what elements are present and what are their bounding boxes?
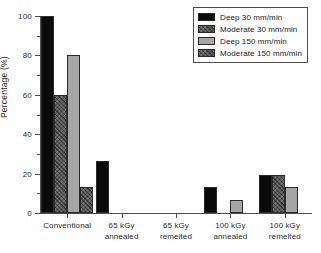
legend-swatch-moderate-150-icon [198, 49, 215, 57]
legend-item[interactable]: Deep 150 mm/min [198, 35, 302, 47]
y-tick-label: 60 [23, 90, 32, 99]
bar[interactable] [96, 161, 109, 213]
y-tick-mark [35, 213, 40, 214]
x-tick-mark [285, 213, 286, 218]
bar[interactable] [204, 187, 217, 213]
legend-label: Moderate 150 mm/min [220, 49, 302, 58]
x-tick-label: 65 kGy annealed [94, 220, 148, 242]
bar[interactable] [54, 95, 67, 213]
bar[interactable] [272, 175, 285, 213]
legend-label: Moderate 30 mm/min [220, 25, 297, 34]
legend-label: Deep 150 mm/min [220, 37, 287, 46]
x-tick-mark [67, 213, 68, 218]
x-tick-label: Conventional [40, 220, 94, 231]
x-tick-mark [230, 213, 231, 218]
legend-item[interactable]: Deep 30 mm/min [198, 11, 302, 23]
legend-label: Deep 30 mm/min [220, 13, 282, 22]
bar[interactable] [67, 55, 80, 213]
x-tick-label: 100 kGy remelted [258, 220, 312, 242]
x-tick-label: 65 kGy remelted [149, 220, 203, 242]
y-tick-label: 0 [27, 209, 32, 218]
y-tick-label: 40 [23, 130, 32, 139]
bar-group-bars [40, 16, 94, 213]
legend-swatch-moderate-30-icon [198, 25, 215, 33]
x-tick-label: 100 kGy annealed [203, 220, 257, 242]
y-tick-label: 20 [23, 169, 32, 178]
x-tick-mark [176, 213, 177, 218]
bar[interactable] [230, 200, 243, 213]
legend-item[interactable]: Moderate 150 mm/min [198, 47, 302, 59]
x-tick-mark [122, 213, 123, 218]
bar[interactable] [259, 175, 272, 213]
bar-group [40, 16, 94, 213]
chart-figure: Percentage (%) 020406080100 Conventional… [0, 0, 321, 253]
legend-swatch-deep-150-icon [198, 37, 215, 45]
bar[interactable] [80, 187, 93, 213]
y-tick-label: 100 [18, 12, 32, 21]
legend-swatch-deep-30-icon [198, 13, 215, 21]
y-tick-label: 80 [23, 51, 32, 60]
bar-group [94, 16, 148, 213]
chart-legend: Deep 30 mm/min Moderate 30 mm/min Deep 1… [193, 7, 308, 63]
legend-item[interactable]: Moderate 30 mm/min [198, 23, 302, 35]
bar-group-bars [94, 16, 148, 213]
y-axis-title: Percentage (%) [0, 56, 9, 118]
bar[interactable] [41, 16, 54, 213]
bar[interactable] [285, 187, 298, 213]
